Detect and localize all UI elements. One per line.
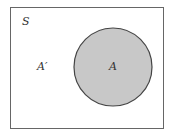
set-a-label: A	[108, 60, 117, 73]
venn-diagram: S A′ A	[0, 0, 172, 137]
complement-label: A′	[36, 60, 48, 73]
universe-label: S	[22, 15, 30, 28]
